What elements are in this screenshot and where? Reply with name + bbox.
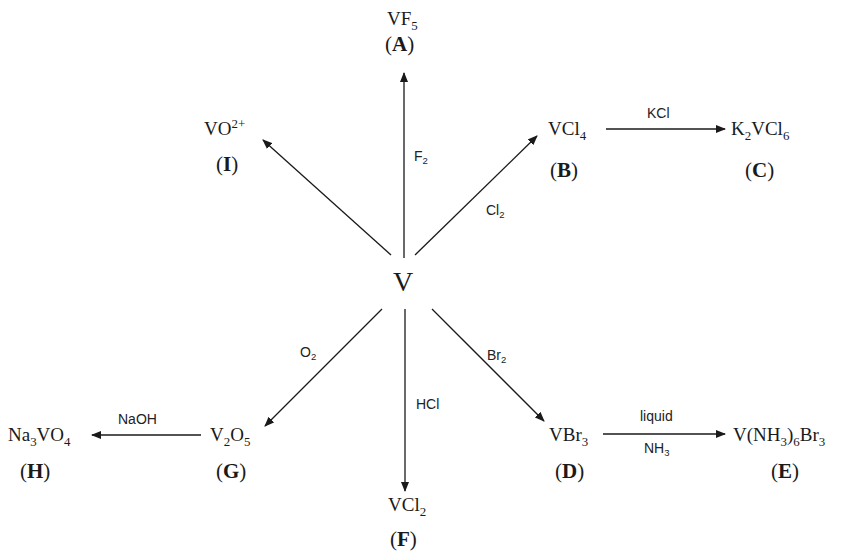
reagent-F2: F2: [414, 148, 428, 164]
compound-H-formula: Na3VO4: [8, 424, 71, 446]
compound-C-formula: K2VCl6: [731, 118, 789, 140]
reagent-Cl2: Cl2: [486, 202, 505, 218]
reagent-Br2: Br2: [487, 347, 506, 363]
compound-C-label: (C): [745, 158, 774, 183]
center-vanadium: V: [393, 266, 413, 298]
reagent-KCl: KCl: [647, 105, 670, 121]
compound-F-label: (F): [390, 527, 417, 552]
arrow-to-I: [263, 140, 391, 255]
compound-G-label: (G): [216, 459, 246, 484]
compound-G-formula: V2O5: [210, 424, 250, 446]
compound-D-label: (D): [555, 459, 584, 484]
reaction-diagram: V VF5 (A) F2 VO2+ (I) VCl4 (B) Cl2 KCl K…: [0, 0, 856, 558]
compound-H-label: (H): [20, 459, 50, 484]
compound-B-formula: VCl4: [548, 118, 586, 140]
arrow-to-B: [415, 136, 537, 255]
reagent-HCl: HCl: [416, 396, 439, 412]
compound-I-label: (I): [216, 152, 238, 177]
reagent-NH3: NH3: [644, 440, 670, 456]
reagent-O2: O2: [300, 344, 316, 360]
compound-A-label: (A): [385, 32, 414, 57]
arrow-to-D: [432, 309, 544, 421]
reagent-NaOH: NaOH: [118, 411, 157, 427]
compound-D-formula: VBr3: [549, 424, 588, 446]
compound-I-formula: VO2+: [204, 118, 245, 140]
compound-E-label: (E): [771, 459, 799, 484]
arrows-layer: [0, 0, 856, 558]
compound-F-formula: VCl2: [388, 494, 426, 516]
compound-A-formula: VF5: [387, 8, 418, 30]
compound-E-formula: V(NH3)6Br3: [733, 424, 825, 446]
reagent-liquid: liquid: [640, 408, 673, 424]
compound-B-label: (B): [550, 158, 578, 183]
arrow-to-G: [265, 309, 382, 426]
